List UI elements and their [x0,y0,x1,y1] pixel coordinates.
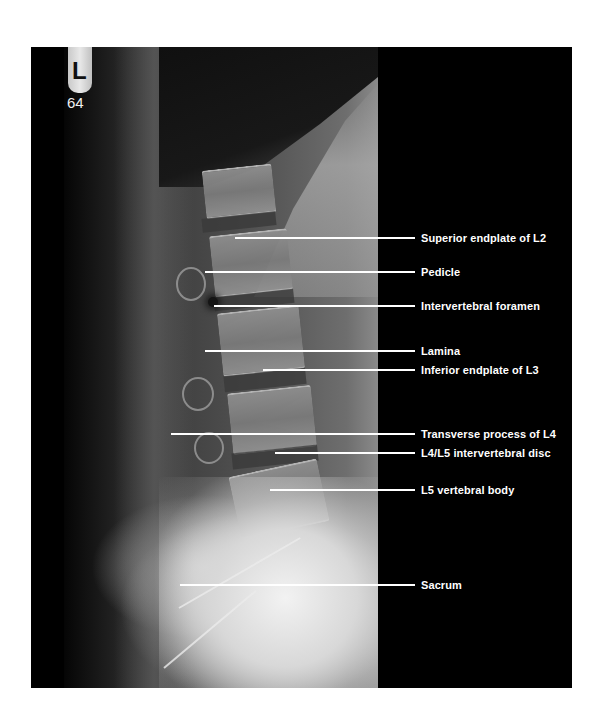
leader-line-sacrum [180,584,415,586]
label-superior-endplate-l2: Superior endplate of L2 [421,232,546,244]
radiograph-figure: L 64 Superior endplate of L2 Pedicle Int… [31,47,572,688]
facet-joint [182,377,214,411]
label-sacrum: Sacrum [421,579,462,591]
label-lamina: Lamina [421,345,460,357]
label-transverse-process-l4: Transverse process of L4 [421,428,556,440]
leader-line-transverse-process-l4 [171,433,415,435]
label-pedicle: Pedicle [421,266,460,278]
leader-line-l5-vertebral-body [270,489,415,491]
leader-line-l4-l5-disc [275,452,415,454]
marker-number: 64 [67,95,84,110]
leader-line-lamina [205,350,415,352]
label-l4-l5-disc: L4/L5 intervertebral disc [421,447,551,459]
marker-letter: L [72,59,87,83]
lumbar-spine-xray [64,47,378,688]
leader-line-pedicle [205,271,415,273]
label-intervertebral-foramen: Intervertebral foramen [421,300,540,312]
leader-line-intervertebral-foramen [214,305,415,307]
vertebral-body-l3 [217,305,305,377]
vertebral-body-l4 [227,385,317,455]
label-l5-vertebral-body: L5 vertebral body [421,484,514,496]
leader-line-superior-endplate-l2 [235,237,415,239]
facet-joint [194,432,224,464]
sacrum-pelvis [159,477,378,688]
leader-line-inferior-endplate-l3 [263,369,415,371]
orientation-marker: L [68,47,92,93]
label-inferior-endplate-l3: Inferior endplate of L3 [421,364,539,376]
facet-joint [176,267,206,301]
